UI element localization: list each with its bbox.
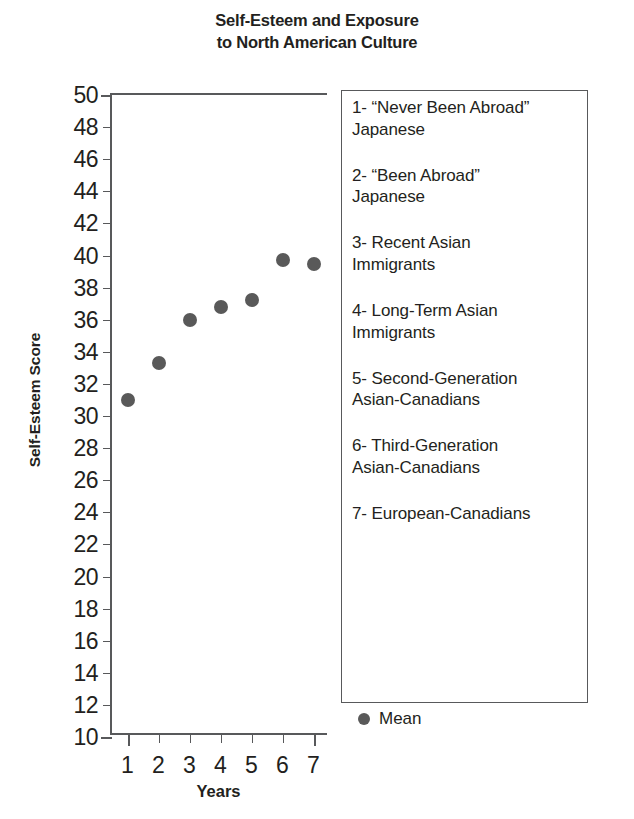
y-axis-tick-label: 26 <box>38 469 98 492</box>
y-axis-tick <box>103 320 112 321</box>
legend-entry: 6- Third-Generation Asian-Canadians <box>352 435 583 478</box>
y-axis-tick-label: 22 <box>38 533 98 556</box>
y-axis-tick <box>103 480 112 481</box>
y-axis-tick <box>103 448 112 449</box>
x-axis-tick <box>252 733 253 743</box>
chart-page: Self-Esteem and Exposure to North Americ… <box>0 0 634 819</box>
y-axis-tick <box>101 95 112 97</box>
legend-entry: 2- “Been Abroad” Japanese <box>352 165 583 208</box>
y-axis-tick <box>103 512 112 513</box>
y-axis-tick-label: 32 <box>38 373 98 396</box>
chart-title-line-2: to North American Culture <box>0 32 634 54</box>
y-axis-tick-label: 38 <box>38 277 98 300</box>
x-axis-tick <box>314 733 316 746</box>
y-axis-tick <box>103 577 112 578</box>
legend-entry: 1- “Never Been Abroad” Japanese <box>352 97 583 140</box>
y-axis-tick-label: 28 <box>38 437 98 460</box>
y-axis-tick-label: 20 <box>38 566 98 589</box>
y-axis-tick-label: 30 <box>38 405 98 428</box>
y-axis-tick <box>103 544 112 545</box>
legend-entry: 5- Second-Generation Asian-Canadians <box>352 368 583 411</box>
y-axis-tick <box>103 641 112 642</box>
chart-title: Self-Esteem and Exposure to North Americ… <box>0 10 634 54</box>
data-point <box>121 393 135 407</box>
y-axis-tick-label: 34 <box>38 341 98 364</box>
legend-entry-list: 1- “Never Been Abroad” Japanese2- “Been … <box>352 97 583 525</box>
data-point <box>245 293 259 307</box>
mean-key-label: Mean <box>379 710 422 727</box>
y-axis-tick <box>101 737 112 739</box>
y-axis-tick-label: 24 <box>38 501 98 524</box>
y-axis-tick <box>103 159 112 160</box>
y-axis-tick-label: 14 <box>38 662 98 685</box>
y-axis-tick-label: 48 <box>38 116 98 139</box>
y-axis-tick <box>103 384 112 385</box>
data-point <box>183 313 197 327</box>
data-point <box>307 257 321 271</box>
y-axis-tick-label: 44 <box>38 180 98 203</box>
y-axis-tick-label: 46 <box>38 148 98 171</box>
x-axis-title: Years <box>110 782 327 801</box>
mean-marker-icon <box>358 713 370 725</box>
legend-entry: 3- Recent Asian Immigrants <box>352 232 583 275</box>
legend-entry: 7- European-Canadians <box>352 503 583 525</box>
y-axis-tick <box>103 127 112 128</box>
y-axis-tick <box>103 416 112 417</box>
y-axis-tick <box>103 609 112 610</box>
data-point <box>152 356 166 370</box>
x-axis-tick <box>128 733 130 746</box>
plot-inner: 5048464442403836343230282624222018161412… <box>112 95 327 733</box>
x-axis-tick <box>221 733 222 743</box>
y-axis-tick <box>103 288 112 289</box>
y-axis-tick <box>103 673 112 674</box>
y-axis-tick-label: 16 <box>38 630 98 653</box>
y-axis-tick-label: 18 <box>38 598 98 621</box>
x-axis-tick <box>283 733 284 743</box>
y-axis-tick <box>103 705 112 706</box>
y-axis-tick-label: 42 <box>38 212 98 235</box>
y-axis-tick-label: 12 <box>38 694 98 717</box>
x-axis-tick <box>159 733 160 743</box>
data-point <box>276 253 290 267</box>
legend-box: 1- “Never Been Abroad” Japanese2- “Been … <box>341 90 588 703</box>
y-axis-tick <box>103 256 112 257</box>
chart-title-line-1: Self-Esteem and Exposure <box>0 10 634 32</box>
data-point <box>214 300 228 314</box>
y-axis-tick-label: 40 <box>38 245 98 268</box>
y-axis-tick-label: 36 <box>38 309 98 332</box>
y-axis-tick-label: 50 <box>38 84 98 107</box>
y-axis-tick <box>103 352 112 353</box>
plot-area: 5048464442403836343230282624222018161412… <box>110 93 327 735</box>
legend-entry: 4- Long-Term Asian Immigrants <box>352 300 583 343</box>
mean-key: Mean <box>358 710 422 727</box>
y-axis-tick <box>103 223 112 224</box>
y-axis-tick <box>103 191 112 192</box>
y-axis-tick-label: 10 <box>38 726 98 749</box>
x-axis-tick-label: 7 <box>294 754 334 777</box>
x-axis-tick <box>190 733 191 743</box>
